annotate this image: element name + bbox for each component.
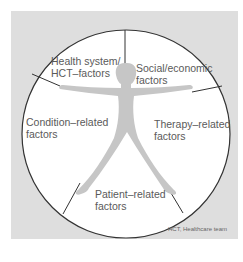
segment-label-therapy: Therapy–related factors <box>154 118 230 142</box>
segment-label-health-system: Health system/ HCT–factors <box>51 55 120 79</box>
segment-label-social-economic: Social/economic factors <box>136 62 212 86</box>
footnote: HCT, Healthcare team <box>168 226 227 232</box>
segment-label-condition: Condition–related factors <box>26 116 108 140</box>
segment-label-patient: Patient–related factors <box>95 188 166 212</box>
